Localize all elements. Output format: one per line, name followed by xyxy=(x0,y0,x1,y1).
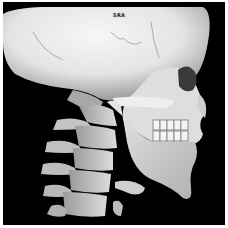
orientation-label: SRA xyxy=(112,12,126,18)
cervical-spine xyxy=(41,105,117,217)
hyoid xyxy=(115,181,145,195)
ct-render-viewport: SRA xyxy=(3,2,225,225)
styloid xyxy=(113,201,123,216)
skull-volume-render xyxy=(3,2,225,225)
